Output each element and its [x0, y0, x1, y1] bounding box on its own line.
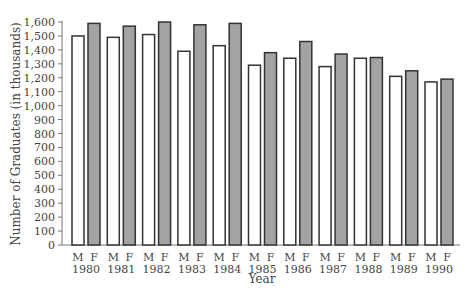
y-tick-label: 300 — [34, 197, 55, 210]
bar-F-1990 — [441, 79, 453, 245]
bar-chart: 01002003004005006007008009001,0001,1001,… — [0, 0, 470, 298]
y-tick-label: 800 — [34, 128, 55, 141]
year-label: 1989 — [390, 263, 418, 276]
bar-M-1980 — [72, 36, 84, 245]
bar-M-1985 — [249, 65, 261, 245]
bar-M-1986 — [284, 58, 296, 245]
bar-F-1984 — [229, 23, 241, 245]
bar-F-1987 — [335, 54, 347, 245]
year-label: 1981 — [107, 263, 135, 276]
bar-M-1981 — [107, 37, 119, 245]
y-tick-label: 900 — [34, 114, 55, 127]
x-axis-title: Year — [248, 272, 276, 286]
y-tick-label: 1,200 — [24, 72, 56, 85]
bar-F-1983 — [194, 25, 206, 245]
y-tick-label: 1,400 — [24, 44, 56, 57]
year-label: 1988 — [354, 263, 382, 276]
bar-F-1988 — [370, 58, 382, 245]
bar-F-1985 — [265, 53, 277, 245]
year-label: 1984 — [213, 263, 241, 276]
year-label: 1983 — [178, 263, 206, 276]
y-tick-label: 100 — [34, 225, 55, 238]
y-tick-label: 0 — [48, 239, 55, 252]
y-tick-label: 400 — [34, 183, 55, 196]
y-tick-label: 1,100 — [24, 86, 56, 99]
year-label: 1987 — [319, 263, 347, 276]
bar-F-1982 — [159, 22, 171, 245]
bar-M-1982 — [143, 35, 155, 245]
bar-F-1986 — [300, 42, 312, 245]
year-label: 1986 — [284, 263, 312, 276]
bar-M-1989 — [390, 76, 402, 245]
year-label: 1982 — [143, 263, 171, 276]
bar-M-1988 — [354, 58, 366, 245]
year-label: 1980 — [72, 263, 100, 276]
bar-M-1984 — [213, 46, 225, 245]
bar-M-1990 — [425, 82, 437, 245]
bars — [72, 22, 453, 245]
bar-M-1983 — [178, 51, 190, 245]
bar-M-1987 — [319, 67, 331, 245]
y-tick-label: 1,000 — [24, 100, 56, 113]
bar-F-1980 — [88, 23, 100, 245]
year-label: 1990 — [425, 263, 453, 276]
y-axis-title: Number of Graduates (in thousands) — [9, 22, 23, 246]
y-tick-label: 500 — [34, 169, 55, 182]
y-tick-label: 200 — [34, 211, 55, 224]
bar-F-1989 — [406, 71, 418, 245]
y-tick-label: 600 — [34, 155, 55, 168]
y-tick-label: 700 — [34, 141, 55, 154]
y-tick-label: 1,600 — [24, 16, 56, 29]
bar-F-1981 — [123, 26, 135, 245]
y-tick-label: 1,500 — [24, 30, 56, 43]
y-tick-label: 1,300 — [24, 58, 56, 71]
